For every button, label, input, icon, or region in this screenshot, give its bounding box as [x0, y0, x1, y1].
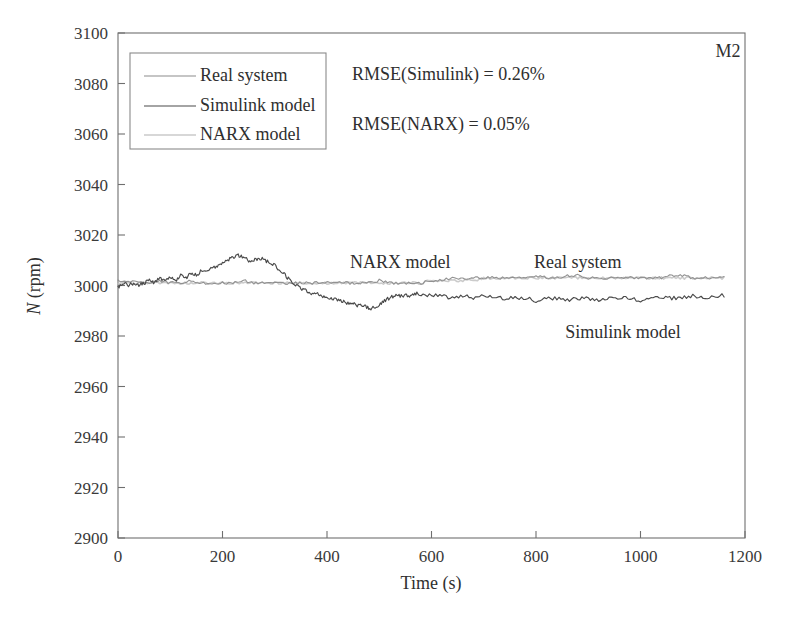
legend: Real systemSimulink modelNARX model	[130, 53, 326, 149]
x-axis-title: Time (s)	[401, 573, 462, 594]
annotation-simulink-model: Simulink model	[565, 322, 681, 342]
x-tick-label-1200: 1200	[728, 547, 762, 566]
y-tick-label-3060: 3060	[74, 125, 108, 144]
annotation-real-system: Real system	[534, 252, 622, 272]
y-tick-label-2900: 2900	[74, 529, 108, 548]
y-tick-label-3020: 3020	[74, 226, 108, 245]
rmse-narx-text: RMSE(NARX) = 0.05%	[352, 114, 530, 135]
legend-label-narx-model: NARX model	[200, 124, 301, 144]
y-tick-label-2980: 2980	[74, 327, 108, 346]
y-axis-title-symbol: N	[24, 302, 44, 316]
y-tick-label-3040: 3040	[74, 176, 108, 195]
y-axis-title-unit: (rpm)	[24, 257, 45, 302]
x-axis-tick-labels: 020040060080010001200	[114, 547, 762, 566]
y-tick-label-3000: 3000	[74, 277, 108, 296]
x-tick-label-600: 600	[419, 547, 445, 566]
x-tick-label-400: 400	[314, 547, 340, 566]
x-tick-label-200: 200	[210, 547, 236, 566]
x-tick-label-800: 800	[523, 547, 549, 566]
y-tick-label-2960: 2960	[74, 378, 108, 397]
corner-label-m2: M2	[715, 41, 740, 61]
rmse-simulink-text: RMSE(Simulink) = 0.26%	[352, 64, 545, 85]
x-axis-ticks	[118, 531, 745, 538]
x-tick-label-1000: 1000	[624, 547, 658, 566]
legend-label-simulink-model: Simulink model	[200, 95, 316, 115]
annotation-narx-model: NARX model	[350, 252, 451, 272]
x-tick-label-0: 0	[114, 547, 123, 566]
y-axis-tick-labels: 3100308030603040302030002980296029402920…	[74, 24, 108, 548]
series-line-real-system	[118, 274, 724, 284]
y-tick-label-3100: 3100	[74, 24, 108, 43]
y-tick-label-2920: 2920	[74, 479, 108, 498]
y-tick-label-2940: 2940	[74, 428, 108, 447]
engine-speed-chart: 020040060080010001200 310030803060304030…	[0, 0, 797, 629]
y-axis-title: N (rpm)	[24, 257, 45, 316]
y-tick-label-3080: 3080	[74, 75, 108, 94]
figure-container: 020040060080010001200 310030803060304030…	[0, 0, 797, 629]
legend-label-real-system: Real system	[200, 65, 288, 85]
